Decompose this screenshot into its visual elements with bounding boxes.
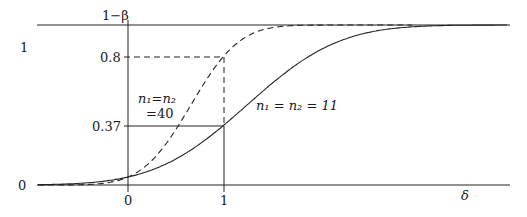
series-label-n40-line2: =40 <box>146 106 173 121</box>
y-tick-0: 0 <box>18 178 26 193</box>
y-tick-1: 1 <box>20 40 28 55</box>
x-tick-1: 1 <box>220 193 228 208</box>
y-label-0.37: 0.37 <box>92 119 121 134</box>
x-axis-title: δ <box>461 188 469 203</box>
series-label-n11: n₁ = n₂ = 11 <box>256 98 338 113</box>
x-tick-0: 0 <box>124 193 132 208</box>
y-label-0.8: 0.8 <box>100 50 121 65</box>
series-label-n40-line1: n₁=n₂ <box>138 91 176 106</box>
y-axis-title: 1−β <box>102 8 129 23</box>
power-curve-chart: 1−β 1 0 0.8 0.37 0 1 δ n₁=n₂ =40 n₁ = n₂… <box>0 0 527 217</box>
power-curve-n40 <box>38 25 412 185</box>
